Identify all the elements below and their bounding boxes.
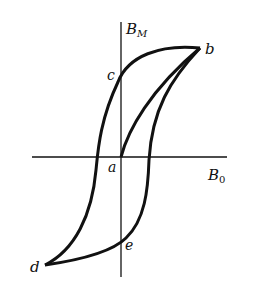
point-d-label: d	[30, 258, 40, 276]
point-c-label: c	[107, 67, 115, 83]
hysteresis-diagram: BM B0 a b c d e	[0, 0, 253, 298]
point-b-label: b	[205, 40, 215, 58]
y-axis-label: BM	[125, 20, 148, 39]
point-a-label: a	[108, 159, 116, 175]
x-axis-label: B0	[207, 166, 225, 185]
point-e-label: e	[125, 237, 133, 253]
